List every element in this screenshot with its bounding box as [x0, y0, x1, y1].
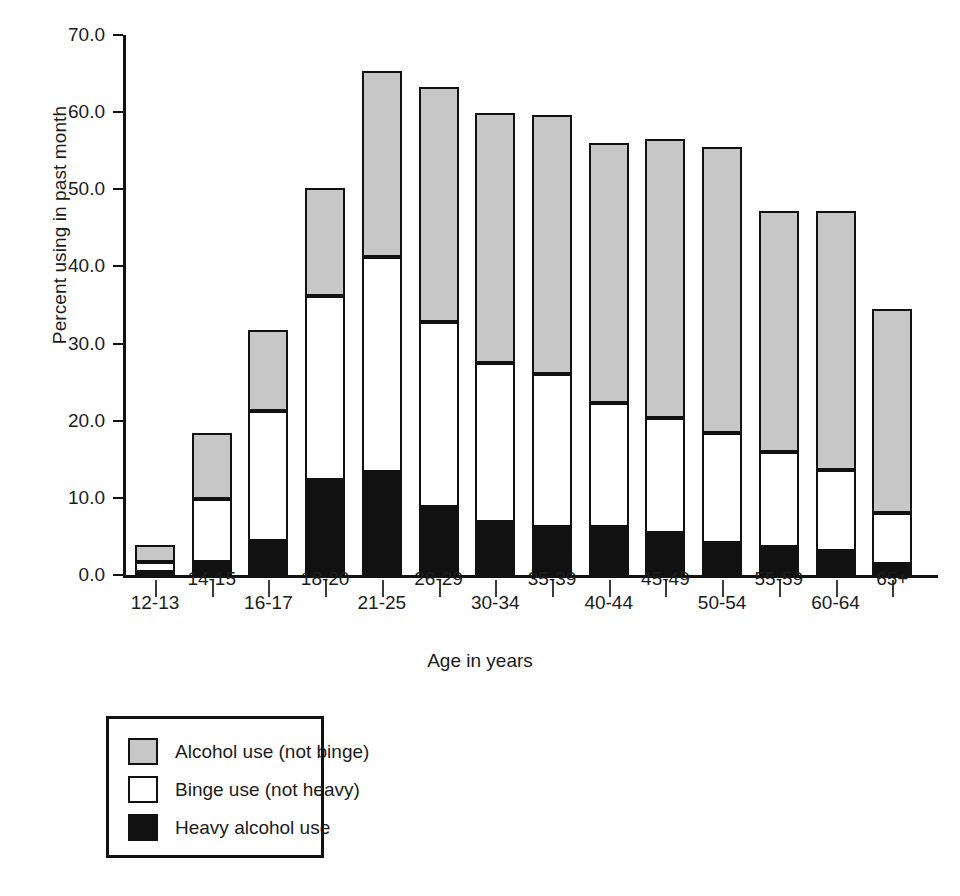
bar-segment-binge-use: [872, 513, 912, 565]
y-tick-mark: [113, 574, 123, 576]
bar-segment-binge-use: [645, 418, 685, 534]
y-tick-mark: [113, 343, 123, 345]
bar-column: [872, 309, 912, 575]
bar-column: [645, 139, 685, 575]
y-tick-mark: [113, 497, 123, 499]
x-tick-label: 26-29: [399, 568, 479, 590]
bar-column: [192, 433, 232, 575]
plot-area: 0.010.020.030.040.050.060.070.0: [123, 35, 935, 575]
bar-segment-binge-use: [532, 374, 572, 527]
bar-segment-binge-use: [135, 562, 175, 572]
bar-segment-alcohol-use: [702, 147, 742, 433]
bar-segment-alcohol-use: [135, 545, 175, 562]
legend-item-heavy-use: Heavy alcohol use: [128, 814, 330, 841]
bar-column: [419, 87, 459, 575]
legend-label: Alcohol use (not binge): [175, 741, 369, 763]
bar-segment-heavy-alcohol-use: [816, 551, 856, 575]
x-tick-label: 16-17: [228, 592, 308, 614]
y-tick-mark: [113, 188, 123, 190]
y-tick-label: 30.0: [41, 333, 105, 355]
bar-column: [702, 147, 742, 575]
y-tick-label: 0.0: [41, 564, 105, 586]
y-tick-label: 50.0: [41, 178, 105, 200]
legend-item-alcohol-use: Alcohol use (not binge): [128, 738, 369, 765]
y-tick-mark: [113, 111, 123, 113]
bar-column: [305, 188, 345, 575]
bar-segment-alcohol-use: [248, 330, 288, 411]
x-tick-label: 45-49: [625, 568, 705, 590]
bar-column: [135, 545, 175, 575]
bar-column: [475, 113, 515, 575]
y-tick-mark: [113, 420, 123, 422]
x-tick-label: 21-25: [342, 592, 422, 614]
bar-segment-alcohol-use: [419, 87, 459, 322]
bar-segment-alcohol-use: [759, 211, 799, 452]
bar-segment-alcohol-use: [475, 113, 515, 363]
bar-segment-alcohol-use: [589, 143, 629, 403]
bar-segment-binge-use: [759, 452, 799, 547]
y-tick-mark: [113, 265, 123, 267]
bar-column: [816, 211, 856, 575]
x-tick-label: 60-64: [796, 592, 876, 614]
bar-segment-alcohol-use: [362, 71, 402, 258]
x-tick-label: 35-39: [512, 568, 592, 590]
x-tick-label: 30-34: [455, 592, 535, 614]
bar-column: [248, 330, 288, 575]
bar-segment-alcohol-use: [645, 139, 685, 417]
bar-segment-binge-use: [475, 363, 515, 522]
x-tick-label: 14-15: [172, 568, 252, 590]
x-axis-title: Age in years: [0, 650, 960, 672]
legend-swatch-black-icon: [128, 814, 158, 841]
x-tick-label: 65+: [852, 568, 932, 590]
bar-segment-binge-use: [589, 403, 629, 527]
y-tick-label: 20.0: [41, 410, 105, 432]
bar-segment-heavy-alcohol-use: [305, 480, 345, 575]
legend-swatch-gray-icon: [128, 738, 158, 765]
bar-segment-binge-use: [248, 411, 288, 541]
bar-segment-binge-use: [419, 322, 459, 507]
legend-swatch-white-icon: [128, 776, 158, 803]
legend-label: Binge use (not heavy): [175, 779, 360, 801]
y-tick-label: 40.0: [41, 255, 105, 277]
bar-segment-alcohol-use: [192, 433, 232, 499]
y-tick-mark: [113, 34, 123, 36]
legend-item-binge-use: Binge use (not heavy): [128, 776, 360, 803]
x-tick-label: 18-20: [285, 568, 365, 590]
bar-segment-alcohol-use: [816, 211, 856, 470]
y-tick-label: 70.0: [41, 24, 105, 46]
bar-segment-heavy-alcohol-use: [589, 527, 629, 575]
bar-segment-binge-use: [305, 296, 345, 480]
bar-column: [589, 143, 629, 575]
bar-column: [362, 71, 402, 576]
bar-segment-alcohol-use: [872, 309, 912, 513]
bar-column: [759, 211, 799, 575]
bar-segment-alcohol-use: [532, 115, 572, 374]
stacked-bar-chart-figure: Percent using in past month 0.010.020.03…: [0, 0, 960, 896]
bar-segment-binge-use: [362, 257, 402, 471]
bar-segment-binge-use: [192, 499, 232, 562]
x-tick-label: 12-13: [115, 592, 195, 614]
bars-layer: [123, 35, 935, 575]
y-tick-label: 10.0: [41, 487, 105, 509]
legend-label: Heavy alcohol use: [175, 817, 330, 839]
bar-column: [532, 115, 572, 575]
bar-segment-heavy-alcohol-use: [248, 541, 288, 575]
bar-segment-binge-use: [702, 433, 742, 543]
y-tick-label: 60.0: [41, 101, 105, 123]
bar-segment-binge-use: [816, 470, 856, 551]
x-tick-label: 40-44: [569, 592, 649, 614]
bar-segment-heavy-alcohol-use: [362, 472, 402, 575]
bar-segment-heavy-alcohol-use: [702, 543, 742, 575]
x-tick-label: 50-54: [682, 592, 762, 614]
chart-legend: Alcohol use (not binge) Binge use (not h…: [106, 716, 324, 858]
bar-segment-heavy-alcohol-use: [475, 522, 515, 575]
bar-segment-heavy-alcohol-use: [419, 507, 459, 575]
bar-segment-alcohol-use: [305, 188, 345, 296]
x-tick-label: 55-59: [739, 568, 819, 590]
